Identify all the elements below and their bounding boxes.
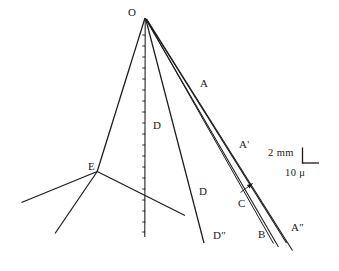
label-ray-d-lower: D xyxy=(199,186,207,197)
ray-e-left xyxy=(22,172,98,203)
label-ray-b: B xyxy=(258,229,266,240)
label-ray-a: A xyxy=(200,78,208,89)
scale-bar-vertical-label: 10 μ xyxy=(285,168,305,179)
ray-a-double-prime xyxy=(147,19,293,251)
label-ray-c: C xyxy=(238,198,246,209)
scale-bar-horizontal-label: 2 mm xyxy=(268,148,294,159)
label-ray-a-prime: A' xyxy=(239,139,249,150)
ray-e-lower-left xyxy=(55,172,97,234)
vertical-axis xyxy=(142,18,145,237)
ray-e-right xyxy=(97,172,185,216)
ray-b xyxy=(147,21,274,244)
label-ray-d-upper: D xyxy=(153,120,161,131)
label-ray-d-double-prime: D″ xyxy=(213,230,226,241)
ray-left-limb xyxy=(97,18,145,172)
ray-diagram-canvas xyxy=(0,0,339,271)
ray-diagram-figure: O E A A' A″ B C D D D″ 2 mm 10 μ xyxy=(0,0,339,271)
label-ray-a-double-prime: A″ xyxy=(291,222,304,233)
label-vertex-e: E xyxy=(88,161,95,172)
scale-bar-marker xyxy=(302,148,319,164)
label-origin: O xyxy=(128,7,136,18)
